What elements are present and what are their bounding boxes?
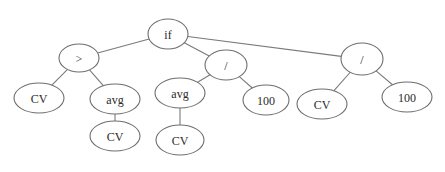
node-label: avg xyxy=(106,93,123,107)
tree-edge-n1-n3 xyxy=(89,70,103,86)
tree-edge-n0-n5 xyxy=(184,43,209,56)
tree-edge-n9-n10 xyxy=(334,72,350,91)
tree-node: CV xyxy=(297,89,347,119)
tree-edge-n0-n9 xyxy=(188,37,342,57)
tree-node: / xyxy=(205,50,247,80)
tree-node: 100 xyxy=(382,82,432,112)
tree-edge-n9-n11 xyxy=(376,71,392,85)
tree-node: CV xyxy=(156,125,204,155)
tree-node: CV xyxy=(90,121,140,151)
node-label: CV xyxy=(314,98,331,112)
tree-edge-n5-n8 xyxy=(239,77,252,88)
tree-edge-n5-n6 xyxy=(198,75,210,83)
node-label: CV xyxy=(107,130,124,144)
tree-node: > xyxy=(59,44,99,72)
tree-edge-n1-n2 xyxy=(52,69,68,85)
tree-node: / xyxy=(341,43,383,75)
expression-tree-diagram: if>CVavgCV/avgCV100/CV100 xyxy=(0,0,445,172)
tree-nodes: if>CVavgCV/avgCV100/CV100 xyxy=(14,19,432,155)
tree-node: if xyxy=(148,19,188,49)
node-label: if xyxy=(164,28,171,42)
node-label: avg xyxy=(171,87,188,101)
tree-node: CV xyxy=(14,83,64,113)
node-label: CV xyxy=(172,134,189,148)
node-label: 100 xyxy=(257,94,275,108)
tree-edge-n0-n1 xyxy=(98,39,150,53)
node-label: > xyxy=(76,52,83,66)
tree-node: avg xyxy=(155,78,205,108)
tree-node: 100 xyxy=(243,85,289,115)
node-label: CV xyxy=(31,92,48,106)
node-label: 100 xyxy=(398,91,416,105)
tree-node: avg xyxy=(90,84,140,114)
